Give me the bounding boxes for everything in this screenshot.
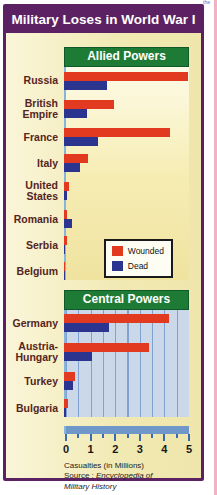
category-label: Romania <box>6 214 64 225</box>
axis-number: 3 <box>137 443 143 455</box>
chart-row: Russia <box>6 72 189 90</box>
page-edge-strip <box>214 0 217 495</box>
category-label: British Empire <box>6 98 64 120</box>
dead-bar <box>64 245 65 254</box>
x-axis-band <box>64 426 189 434</box>
category-label: Serbia <box>6 240 64 251</box>
dead-bar <box>64 191 67 200</box>
bar-group <box>64 210 189 228</box>
minor-tick <box>127 434 129 438</box>
chart-figure: Military Loses in World War I Allied Pow… <box>3 4 204 481</box>
central-powers-chart: Central Powers GermanyAustria-HungaryTur… <box>6 290 189 417</box>
chart-row: France <box>6 128 189 146</box>
major-tick <box>65 434 67 441</box>
category-label: Bulgaria <box>6 403 64 414</box>
bar-group <box>64 182 189 200</box>
wounded-bar <box>64 128 170 137</box>
category-label: Turkey <box>6 376 64 387</box>
axis-number: 5 <box>186 443 192 455</box>
category-label: United States <box>6 180 64 202</box>
allied-powers-chart: Allied Powers RussiaBritish EmpireFrance… <box>6 47 189 280</box>
bar-group <box>64 154 189 172</box>
bar-group <box>64 314 189 332</box>
legend-dead-label: Dead <box>128 261 148 271</box>
chart-row: Germany <box>6 314 189 332</box>
axis-number: 2 <box>112 443 118 455</box>
minor-tick <box>102 434 104 438</box>
major-tick <box>163 434 165 441</box>
legend-wounded-label: Wounded <box>128 246 164 256</box>
wounded-bar <box>64 399 68 408</box>
category-label: Austria-Hungary <box>6 341 64 363</box>
dead-bar <box>64 81 107 90</box>
dead-bar <box>64 381 73 390</box>
source-prefix: Source : <box>64 471 94 480</box>
minor-tick <box>151 434 153 438</box>
category-label: France <box>6 132 64 143</box>
axis-number: 0 <box>63 443 69 455</box>
wounded-bar <box>64 100 114 109</box>
bar-group <box>64 399 189 417</box>
legend-item-dead: Dead <box>112 261 164 271</box>
bar-group <box>64 128 189 146</box>
x-axis-tick-labels: 012345 <box>66 443 189 455</box>
category-label: Belgium <box>6 266 64 277</box>
dead-bar <box>64 137 98 146</box>
axis-caption-block: Casualties (in Millions) Source : Encycl… <box>64 461 189 492</box>
wounded-bar <box>64 262 65 271</box>
dead-bar <box>64 163 80 172</box>
dead-bar <box>64 323 109 332</box>
page-corner-fragment: the <box>203 0 210 5</box>
central-rows: GermanyAustria-HungaryTurkeyBulgaria <box>6 310 189 417</box>
wounded-bar <box>64 314 169 323</box>
legend-item-wounded: Wounded <box>112 246 164 256</box>
chart-row: Romania <box>6 210 189 228</box>
dead-bar <box>64 271 65 280</box>
chart-row: Italy <box>6 154 189 172</box>
category-label: Italy <box>6 158 64 169</box>
wounded-swatch-icon <box>112 246 123 256</box>
wounded-bar <box>64 210 67 219</box>
bar-group <box>64 100 189 118</box>
chart-row: Turkey <box>6 372 189 390</box>
wounded-bar <box>64 72 188 81</box>
figure-title: Military Loses in World War I <box>6 7 201 33</box>
chart-row: Austria-Hungary <box>6 341 189 363</box>
category-label: Russia <box>6 75 64 86</box>
major-tick <box>90 434 92 441</box>
source-note: Source : Encyclopedia of Military Histor… <box>64 471 172 492</box>
major-tick <box>188 434 190 441</box>
bar-group <box>64 72 189 90</box>
axis-caption: Casualties (in Millions) <box>64 461 189 471</box>
axis-number: 1 <box>88 443 94 455</box>
minor-tick <box>77 434 79 438</box>
allied-powers-header: Allied Powers <box>64 47 189 67</box>
wounded-bar <box>64 343 149 352</box>
x-axis: 012345 <box>6 426 189 455</box>
dead-bar <box>64 408 66 417</box>
wounded-bar <box>64 236 67 245</box>
legend-box: Wounded Dead <box>104 239 173 278</box>
category-label: Germany <box>6 318 64 329</box>
bar-group <box>64 372 189 390</box>
wounded-bar <box>64 372 75 381</box>
minor-tick <box>176 434 178 438</box>
wounded-bar <box>64 154 88 163</box>
major-tick <box>114 434 116 441</box>
major-tick <box>139 434 141 441</box>
x-axis-ticks <box>66 434 189 442</box>
central-powers-header: Central Powers <box>64 290 189 310</box>
chart-row: United States <box>6 180 189 202</box>
chart-row: Bulgaria <box>6 399 189 417</box>
dead-swatch-icon <box>112 261 123 271</box>
dead-bar <box>64 219 72 228</box>
figure-content: Allied Powers RussiaBritish EmpireFrance… <box>6 33 201 492</box>
wounded-bar <box>64 182 69 191</box>
dead-bar <box>64 109 87 118</box>
chart-row: British Empire <box>6 98 189 120</box>
axis-number: 4 <box>161 443 167 455</box>
dead-bar <box>64 352 92 361</box>
bar-group <box>64 343 189 361</box>
